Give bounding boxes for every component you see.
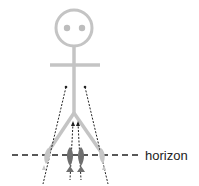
head: [56, 10, 92, 46]
right-leg: [74, 113, 101, 152]
left-arrow-tip: [65, 86, 68, 89]
inner-left-arrowhead-icon: [71, 121, 75, 126]
inner-left-foot: [67, 147, 73, 166]
left-outer-foot-tail: [42, 165, 46, 170]
inner-right-foot-tail: [77, 166, 85, 172]
left-outer-dotted-arrow: [43, 87, 66, 184]
right-outer-foot-tail: [102, 165, 106, 170]
left-outer-foot: [44, 148, 50, 164]
right-arrow-tip: [84, 86, 87, 89]
left-eye: [64, 25, 70, 31]
horizon-diagram: horizon: [0, 0, 199, 186]
inner-right-foot: [78, 147, 84, 166]
horizon-label: horizon: [145, 148, 188, 163]
right-eye: [79, 25, 85, 31]
right-outer-foot: [99, 148, 104, 164]
inner-left-foot-tail: [66, 166, 74, 172]
